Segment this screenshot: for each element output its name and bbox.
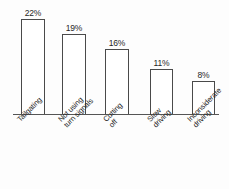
bar-value-label-3: 16% (109, 39, 125, 48)
bar-value-label-5: 8% (198, 71, 210, 80)
bar-value-label-1: 22% (25, 9, 41, 18)
x-axis-tick-labels: Tailgating Not using turn signals Cuttin… (0, 115, 229, 189)
bar-chart: 22% 19% 16% 11% 8% Tailgating Not using … (0, 0, 229, 189)
bar-value-label-4: 11% (154, 59, 170, 68)
bar-value-label-2: 19% (66, 24, 82, 33)
